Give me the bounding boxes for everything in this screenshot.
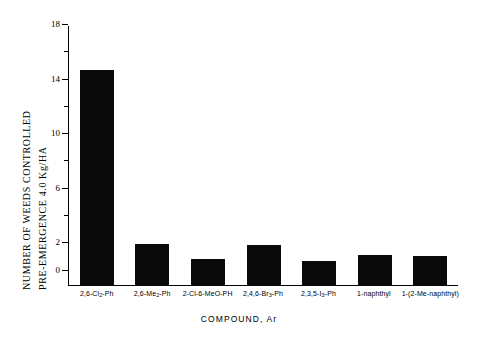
y-tick-label: 18	[51, 19, 60, 29]
y-tick-mark	[64, 51, 68, 52]
bar-cell	[291, 24, 347, 286]
bar-cell	[69, 24, 125, 286]
x-category-label: 1-naphthyl	[346, 290, 401, 298]
bar	[413, 256, 447, 286]
y-tick-label: 10	[51, 128, 60, 138]
x-axis-category-labels: 2,6-Cl2-Ph2,6-Me2-Ph2-Cl-6-MeO-PH2,4,6-B…	[69, 290, 459, 298]
bar	[135, 244, 169, 286]
y-tick-mark	[62, 242, 68, 243]
bar-chart-figure: NUMBER OF WEEDS CONTROLLED PRE-EMERGENCE…	[0, 0, 478, 350]
plot-area: 026101418	[68, 24, 458, 286]
y-tick-label: 6	[56, 183, 61, 193]
y-tick-mark	[62, 79, 68, 80]
y-tick-mark	[64, 160, 68, 161]
y-tick-mark	[64, 106, 68, 107]
bar	[191, 259, 225, 286]
bar	[80, 70, 114, 286]
bar-cell	[347, 24, 403, 286]
bar-cell	[402, 24, 458, 286]
x-category-label: 2,3,5-I3-Ph	[291, 290, 346, 298]
y-tick-label: 14	[51, 74, 60, 84]
y-tick-label: 0	[56, 265, 61, 275]
bar-cell	[180, 24, 236, 286]
y-axis-title-line1: NUMBER OF WEEDS CONTROLLED	[22, 110, 32, 290]
y-tick-mark	[62, 24, 68, 25]
x-category-label: 2,4,6-Br3-Ph	[235, 290, 290, 298]
bar-cell	[125, 24, 181, 286]
bar	[302, 261, 336, 286]
bar-series	[69, 24, 458, 286]
x-category-label: 1-(2-Me-naphthyl)	[402, 290, 459, 298]
y-tick-mark	[64, 215, 68, 216]
bar	[358, 255, 392, 286]
x-category-label: 2,6-Me2-Ph	[124, 290, 179, 298]
x-category-label: 2-Cl-6-MeO-PH	[180, 290, 235, 298]
y-axis-title-line2: PRE-EMERGENCE 4.0 Kg/HA	[38, 146, 48, 290]
y-axis-title: NUMBER OF WEEDS CONTROLLED PRE-EMERGENCE…	[18, 60, 64, 290]
y-tick-mark	[62, 270, 68, 271]
bar	[247, 245, 281, 286]
x-category-label: 2,6-Cl2-Ph	[69, 290, 124, 298]
y-tick-mark	[62, 188, 68, 189]
y-tick-mark	[62, 133, 68, 134]
x-axis-title: COMPOUND, Ar	[0, 314, 478, 324]
y-tick-label: 2	[56, 237, 61, 247]
bar-cell	[236, 24, 292, 286]
